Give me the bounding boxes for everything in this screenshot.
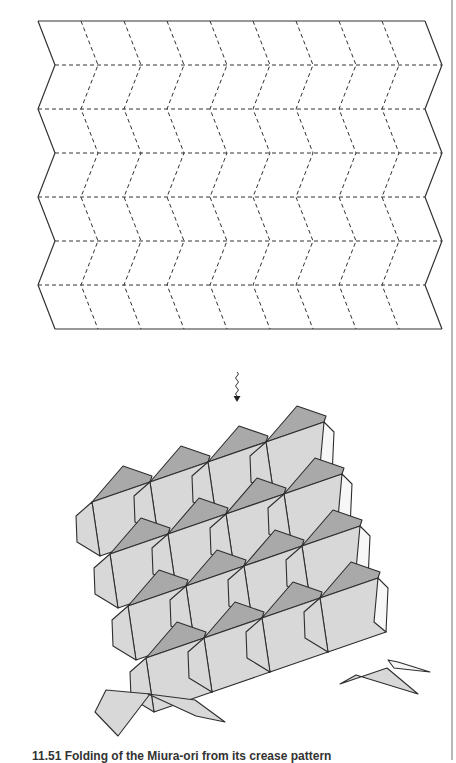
figure-caption: 11.51 Folding of the Miura-ori from its … <box>32 749 331 763</box>
